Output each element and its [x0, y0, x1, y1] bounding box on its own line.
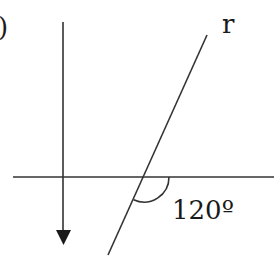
arrowhead-down-icon: [56, 230, 71, 245]
line-r-label: r: [222, 9, 235, 39]
item-label: ): [0, 12, 8, 42]
geometry-diagram: ) r 120º: [0, 0, 274, 260]
angle-label: 120º: [172, 195, 234, 225]
vertical-arrow: [56, 22, 71, 245]
angle-arc: [134, 177, 169, 202]
